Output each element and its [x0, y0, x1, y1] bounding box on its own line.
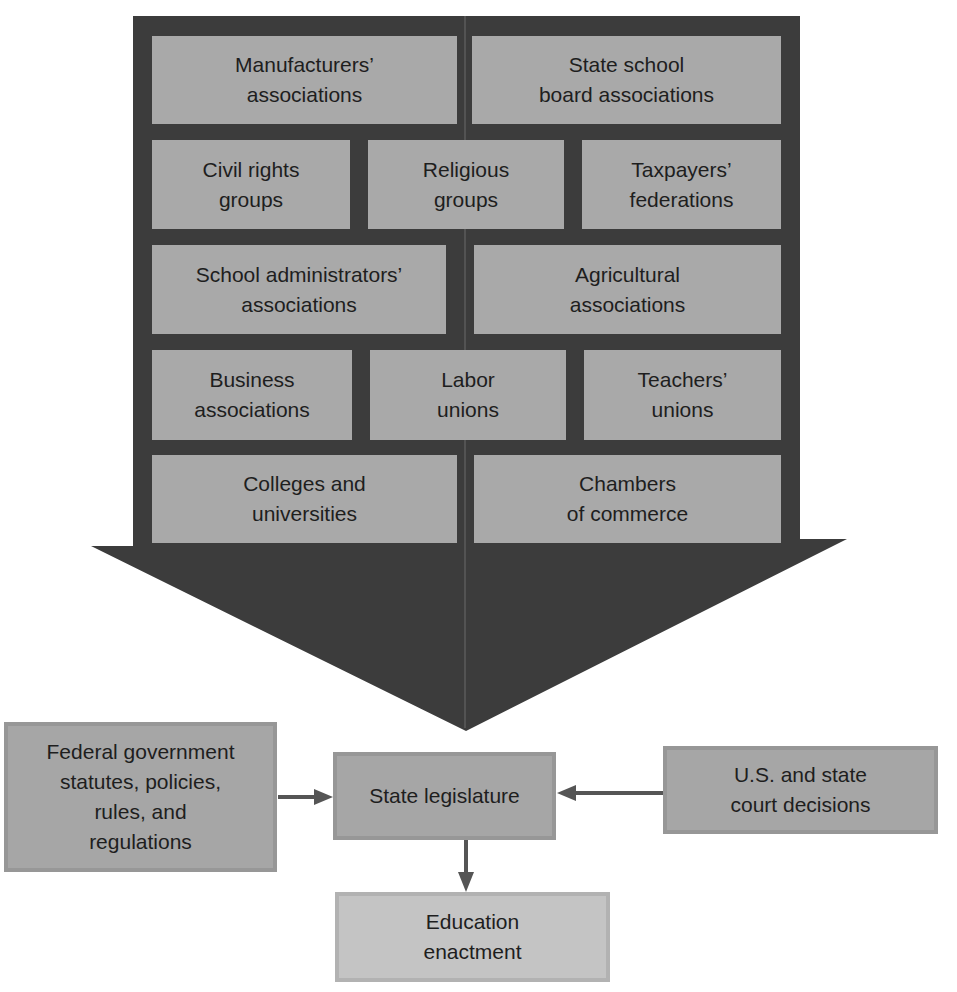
court-decisions-box: U.S. and state court decisions: [663, 746, 938, 834]
group-label: Chambers of commerce: [567, 469, 688, 529]
group-manufacturers-associations: Manufacturers’ associations: [152, 36, 457, 124]
education-enactment-box: Education enactment: [335, 892, 610, 982]
group-business-associations: Business associations: [152, 350, 352, 440]
arrowhead-left-icon: [557, 785, 576, 801]
group-label: Colleges and universities: [243, 469, 366, 529]
group-school-administrators-associations: School administrators’ associations: [152, 245, 446, 334]
arrowhead-right-icon: [314, 789, 333, 805]
federal-label: Federal government statutes, policies, r…: [47, 737, 235, 857]
group-religious-groups: Religious groups: [368, 140, 564, 229]
legislature-label: State legislature: [369, 781, 520, 811]
arrowhead-down-icon: [458, 872, 474, 892]
group-label: Religious groups: [423, 155, 509, 215]
enactment-label: Education enactment: [423, 907, 521, 967]
group-chambers-of-commerce: Chambers of commerce: [474, 455, 781, 543]
education-policy-influence-diagram: Manufacturers’ associations State school…: [0, 0, 957, 992]
group-label: Labor unions: [437, 365, 499, 425]
group-label: State school board associations: [539, 50, 714, 110]
group-state-school-board-associations: State school board associations: [472, 36, 781, 124]
group-labor-unions: Labor unions: [370, 350, 566, 440]
federal-government-box: Federal government statutes, policies, r…: [4, 722, 277, 872]
group-taxpayers-federations: Taxpayers’ federations: [582, 140, 781, 229]
group-label: Taxpayers’ federations: [630, 155, 734, 215]
group-colleges-and-universities: Colleges and universities: [152, 455, 457, 543]
group-label: Teachers’ unions: [638, 365, 728, 425]
group-label: Business associations: [194, 365, 310, 425]
group-label: School administrators’ associations: [196, 260, 403, 320]
group-agricultural-associations: Agricultural associations: [474, 245, 781, 334]
group-label: Agricultural associations: [570, 260, 686, 320]
group-label: Civil rights groups: [203, 155, 300, 215]
state-legislature-box: State legislature: [333, 752, 556, 840]
group-civil-rights-groups: Civil rights groups: [152, 140, 350, 229]
group-label: Manufacturers’ associations: [235, 50, 374, 110]
group-teachers-unions: Teachers’ unions: [584, 350, 781, 440]
courts-label: U.S. and state court decisions: [730, 760, 870, 820]
